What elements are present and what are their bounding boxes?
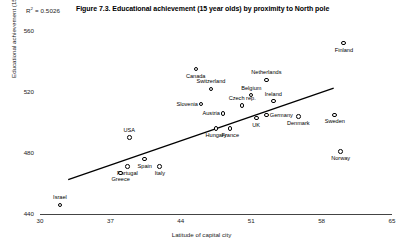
data-point-marker — [296, 114, 301, 119]
data-point-label: Czech rep. — [229, 95, 256, 101]
data-point-label: Finland — [335, 47, 353, 53]
data-point-label: UK — [252, 122, 260, 128]
scatter-plot-area: FinlandCanadaNetherlandsSwitzerlandBelgi… — [0, 0, 403, 246]
data-point-marker — [264, 113, 269, 118]
data-point-label: Ireland — [265, 91, 282, 97]
data-point-marker — [209, 87, 214, 92]
data-point-marker — [338, 149, 343, 154]
data-point-marker — [341, 41, 346, 46]
data-point-label: Netherlands — [251, 69, 281, 75]
data-point-marker — [125, 164, 130, 169]
data-point-marker — [194, 67, 199, 72]
data-point-marker — [240, 103, 245, 108]
data-point-marker — [228, 126, 233, 131]
data-point-marker — [199, 102, 204, 107]
data-point-label: Denmark — [287, 120, 310, 126]
data-point-marker — [118, 171, 123, 176]
data-point-marker — [142, 157, 147, 162]
data-point-label: France — [222, 132, 239, 138]
data-point-label: Slovenia — [176, 101, 197, 107]
data-point-marker — [58, 203, 63, 208]
data-point-label: Sweden — [325, 118, 345, 124]
figure-container: R2 = 0.5026 Figure 7.3. Educational achi… — [0, 0, 403, 246]
data-point-marker — [254, 116, 259, 121]
data-point-label: Austria — [203, 110, 220, 116]
data-point-label: Spain — [138, 163, 152, 169]
data-point-marker — [332, 113, 337, 118]
data-point-marker — [127, 135, 132, 140]
data-point-label: USA — [124, 127, 136, 133]
data-point-marker — [214, 126, 219, 131]
data-point-marker — [221, 111, 226, 116]
data-point-marker — [271, 99, 276, 104]
data-point-label: Israel — [53, 194, 67, 200]
data-point-label: Norway — [331, 155, 350, 161]
data-point-marker — [264, 78, 269, 83]
data-point-label: Switzerland — [196, 78, 225, 84]
data-point-marker — [157, 164, 162, 169]
data-point-label: Italy — [155, 170, 165, 176]
data-point-label: Belgium — [241, 85, 261, 91]
data-point-label: Germany — [270, 112, 293, 118]
data-point-label: Greece — [111, 176, 129, 182]
